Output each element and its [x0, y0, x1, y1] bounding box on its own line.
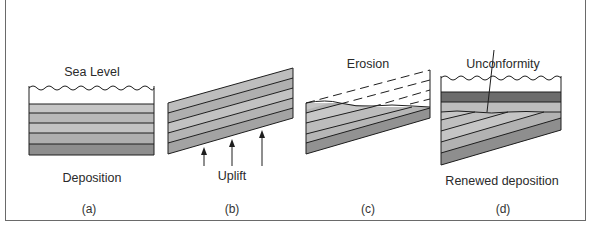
- label-sea-level: Sea Level: [64, 65, 120, 79]
- label-erosion: Erosion: [347, 57, 389, 71]
- panel-a-strata: [29, 86, 154, 155]
- label-uplift: Uplift: [218, 169, 246, 183]
- panel-b-strata: [168, 68, 293, 154]
- label-unconformity: Unconformity: [466, 57, 540, 71]
- panel-c-strata: [306, 70, 430, 154]
- label-renewed-deposition: Renewed deposition: [445, 174, 558, 188]
- unconformity-diagram: [0, 0, 591, 225]
- caption-b: (b): [225, 202, 240, 216]
- caption-a: (a): [82, 202, 97, 216]
- caption-c: (c): [361, 202, 375, 216]
- label-deposition: Deposition: [62, 171, 121, 185]
- caption-d: (d): [496, 202, 511, 216]
